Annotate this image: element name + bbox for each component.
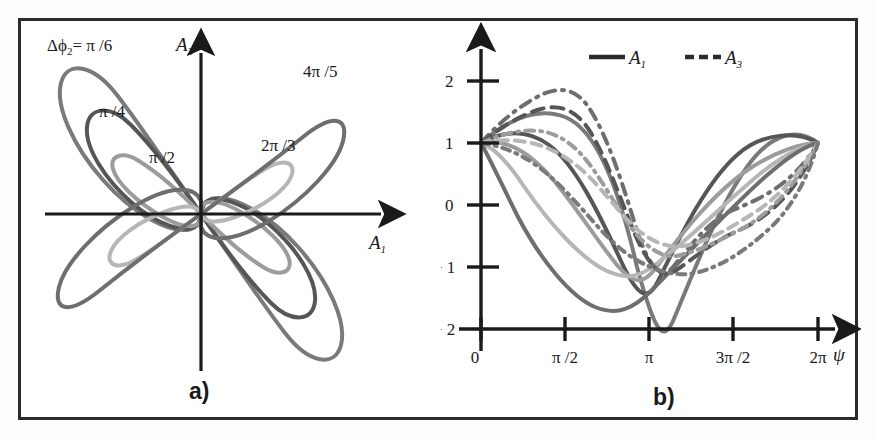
panel-b-xlabel-2pi: 2π [809, 348, 827, 367]
panel-a-axes [45, 53, 381, 371]
panel-b-x-axis-label: ψ [833, 344, 846, 365]
panel-b-curves-a3 [481, 90, 818, 274]
panel-a-curve-label-pi-over-2: π /2 [149, 148, 175, 167]
panel-b-plot: 2 1 0 − 1 − 2 0 π /2 π 3π /2 2π ψ A1 A3 [441, 21, 861, 417]
panel-b-ylabel-2: 2 [445, 72, 454, 91]
curve-b-a1-pi-over-6 [481, 113, 818, 331]
panel-b-ylabel-1: 1 [445, 134, 454, 153]
panel-b-label: b) [653, 384, 675, 410]
panel-b-legend: A1 A3 [589, 47, 743, 70]
panel-b-xlabel-pi: π [645, 348, 654, 367]
panel-a-plot: Δϕ2= π /6 A3 A1 π /4 π /2 2π /3 4π /5 a) [21, 21, 441, 417]
panel-b-xlabel-0: 0 [471, 348, 480, 367]
curve-b-a3-4pi-over-5 [481, 143, 818, 274]
panel-a-annotation: Δϕ2= π /6 [47, 36, 112, 57]
panel-b-xlabel-3pi-2: 3π /2 [716, 348, 751, 367]
panel-a-label: a) [189, 378, 209, 404]
curve-pi-over-4 [87, 111, 201, 229]
panel-a-curve-label-2pi-over-3: 2π /3 [261, 136, 296, 155]
panel-a: Δϕ2= π /6 A3 A1 π /4 π /2 2π /3 4π /5 a) [21, 21, 441, 417]
panel-b-ylabel-neg1: − 1 [441, 258, 455, 277]
curve-pi-over-4-mirror [201, 199, 315, 317]
panel-b-ylabel-neg2: − 2 [441, 320, 455, 339]
panel-b-ylabel-0: 0 [445, 196, 454, 215]
panel-b-curves-a1 [481, 113, 818, 331]
panel-a-x-axis-label: A1 [367, 232, 386, 255]
panel-b: 2 1 0 − 1 − 2 0 π /2 π 3π /2 2π ψ A1 A3 [441, 21, 861, 417]
legend-label-a3: A3 [723, 47, 743, 70]
panel-a-curve-label-4pi-over-5: 4π /5 [303, 62, 338, 81]
panel-a-y-axis-label: A3 [174, 34, 194, 57]
curve-b-a1-2pi-over-3 [481, 143, 818, 276]
figure-container: Δϕ2= π /6 A3 A1 π /4 π /2 2π /3 4π /5 a) [0, 0, 876, 440]
figure-frame: Δϕ2= π /6 A3 A1 π /4 π /2 2π /3 4π /5 a) [18, 18, 858, 420]
panel-b-xlabel-pi-2: π /2 [552, 348, 578, 367]
legend-label-a1: A1 [627, 47, 646, 70]
panel-a-curve-label-pi-over-4: π /4 [99, 102, 126, 121]
